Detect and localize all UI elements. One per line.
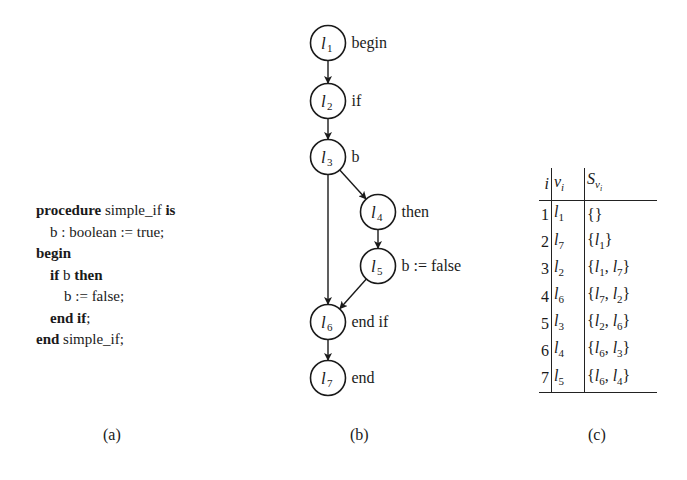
- cell-i: 1: [539, 201, 552, 229]
- svg-text:7: 7: [327, 377, 333, 389]
- header-v: vi: [552, 168, 585, 201]
- cell-v: l1: [552, 201, 585, 229]
- table-row: 2l7{l1}: [539, 229, 657, 256]
- node-label: b := false: [402, 257, 462, 274]
- node-label: begin: [352, 34, 388, 52]
- svg-text:l: l: [321, 313, 326, 332]
- node-l4: l4then: [361, 195, 430, 230]
- table-row: 7l5{l6, l4}: [539, 365, 657, 393]
- cell-set: {l1, l7}: [585, 256, 658, 283]
- node-label: end: [352, 369, 375, 386]
- svg-text:2: 2: [327, 100, 333, 112]
- node-l5: l5b := false: [361, 249, 462, 284]
- svg-text:6: 6: [327, 321, 333, 333]
- header-s: Svi: [585, 168, 658, 201]
- caption-c: (c): [588, 426, 606, 444]
- cell-v: l2: [552, 256, 585, 283]
- table-row: 3l2{l1, l7}: [539, 256, 657, 283]
- cell-i: 5: [539, 310, 552, 337]
- svg-text:l: l: [371, 257, 376, 276]
- svg-text:l: l: [371, 203, 376, 222]
- node-l7: l7end: [311, 361, 375, 396]
- edge-l5-l6: [340, 279, 366, 309]
- cell-set: {l1}: [585, 229, 658, 256]
- svg-text:3: 3: [327, 156, 333, 168]
- cell-i: 7: [539, 365, 552, 393]
- table-header-row: i vi Svi: [539, 168, 657, 201]
- edge-l3-l4: [340, 170, 366, 199]
- svg-text:l: l: [321, 148, 326, 167]
- cell-i: 4: [539, 283, 552, 310]
- svg-text:5: 5: [377, 265, 383, 277]
- cell-i: 6: [539, 337, 552, 364]
- cell-v: l3: [552, 310, 585, 337]
- svg-text:l: l: [321, 369, 326, 388]
- cell-i: 2: [539, 229, 552, 256]
- table-row: 1l1{}: [539, 201, 657, 229]
- cell-i: 3: [539, 256, 552, 283]
- svg-text:4: 4: [377, 211, 383, 223]
- cell-v: l6: [552, 283, 585, 310]
- node-label: then: [402, 203, 430, 220]
- cell-set: {l6, l3}: [585, 337, 658, 364]
- table-row: 4l6{l7, l2}: [539, 283, 657, 310]
- node-l1: l1begin: [311, 26, 388, 61]
- cell-v: l4: [552, 337, 585, 364]
- table-row: 6l4{l6, l3}: [539, 337, 657, 364]
- cell-v: l5: [552, 365, 585, 393]
- table-row: 5l3{l2, l6}: [539, 310, 657, 337]
- node-l3: l3b: [311, 140, 360, 175]
- svg-text:l: l: [321, 34, 326, 53]
- node-label: b: [352, 148, 360, 165]
- vertex-order-table: i vi Svi 1l1{}2l7{l1}3l2{l1, l7}4l6{l7, …: [539, 168, 657, 393]
- node-l2: l2if: [311, 84, 362, 119]
- cell-set: {}: [585, 201, 658, 229]
- cell-set: {l2, l6}: [585, 310, 658, 337]
- cell-set: {l7, l2}: [585, 283, 658, 310]
- header-i: i: [539, 168, 552, 201]
- caption-b: (b): [350, 426, 369, 444]
- node-label: end if: [352, 313, 390, 330]
- node-l6: l6end if: [311, 305, 390, 340]
- cell-v: l7: [552, 229, 585, 256]
- svg-text:l: l: [321, 92, 326, 111]
- cell-set: {l6, l4}: [585, 365, 658, 393]
- node-label: if: [352, 92, 362, 109]
- svg-text:1: 1: [327, 42, 333, 54]
